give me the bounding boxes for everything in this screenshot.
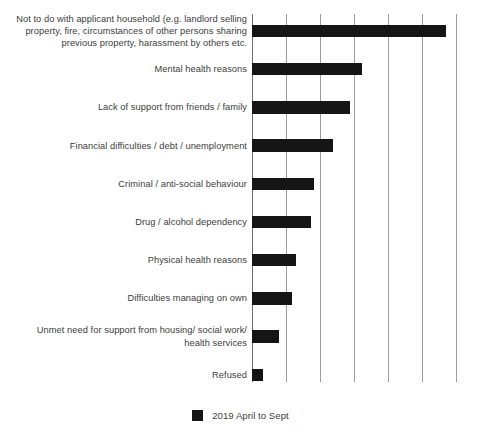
bar[interactable] (252, 330, 279, 343)
legend-item-label: 2019 April to Sept (212, 410, 289, 421)
category-label: Not to do with applicant household (e.g.… (9, 13, 247, 50)
chart-rows: Not to do with applicant household (e.g.… (0, 14, 481, 382)
category-label: Unmet need for support from housing/ soc… (9, 324, 247, 349)
category-label: Financial difficulties / debt / unemploy… (9, 140, 247, 152)
bar[interactable] (252, 101, 350, 114)
category-label: Physical health reasons (9, 254, 247, 266)
category-label: Drug / alcohol dependency (9, 216, 247, 228)
category-label: Difficulties managing on own (9, 292, 247, 304)
legend-swatch-icon (192, 410, 203, 421)
category-label: Lack of support from friends / family (9, 101, 247, 113)
bar[interactable] (252, 139, 333, 152)
bar[interactable] (252, 178, 314, 191)
bar-chart: Not to do with applicant household (e.g.… (0, 0, 481, 448)
bar[interactable] (252, 216, 311, 229)
category-label: Mental health reasons (9, 63, 247, 75)
bar[interactable] (252, 254, 296, 267)
bar[interactable] (252, 63, 362, 76)
bar[interactable] (252, 25, 446, 38)
chart-legend: 2019 April to Sept (0, 410, 481, 421)
category-label: Refused (9, 369, 247, 381)
legend-item[interactable]: 2019 April to Sept (192, 410, 289, 421)
bar[interactable] (252, 292, 292, 305)
bar[interactable] (252, 369, 263, 382)
category-label: Criminal / anti-social behaviour (9, 178, 247, 190)
